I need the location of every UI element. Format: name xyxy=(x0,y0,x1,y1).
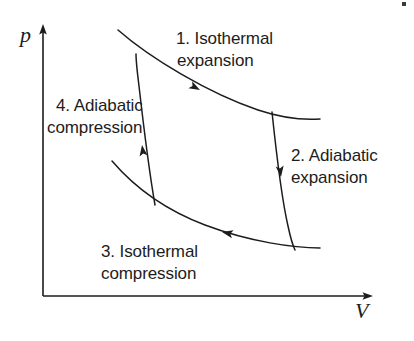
label-step-2-line-2: expansion xyxy=(291,167,378,189)
label-step-3-isothermal-compression: 3. Isothermal compression xyxy=(101,241,198,285)
label-step-4-adiabatic-compression: 4. Adiabatic compression xyxy=(47,95,143,139)
label-step-4-line-1: 4. Adiabatic xyxy=(56,95,143,117)
label-step-3-line-2: compression xyxy=(101,263,198,285)
arrowhead-isothermal-expansion xyxy=(188,81,201,93)
direction-arrowheads-group xyxy=(138,81,285,238)
label-step-1-line-2: expansion xyxy=(177,50,273,72)
scan-artifact-speck xyxy=(402,2,406,6)
label-step-3-line-1: 3. Isothermal xyxy=(101,241,198,263)
label-step-4-line-2: compression xyxy=(47,117,143,139)
carnot-cycle-figure: p V 1. Isothermal expansion 2. Adiabatic… xyxy=(0,0,414,341)
curve-isothermal-compression xyxy=(112,161,320,248)
label-step-1-line-1: 1. Isothermal xyxy=(176,28,273,50)
label-step-2-line-1: 2. Adiabatic xyxy=(291,145,378,167)
label-step-1-isothermal-expansion: 1. Isothermal expansion xyxy=(176,28,273,72)
y-axis-label: p xyxy=(20,24,31,46)
x-axis-label: V xyxy=(355,300,368,322)
arrowhead-adiabatic-expansion xyxy=(276,166,285,178)
label-step-2-adiabatic-expansion: 2. Adiabatic expansion xyxy=(291,145,378,189)
